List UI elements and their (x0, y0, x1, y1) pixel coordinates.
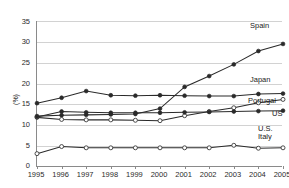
data-point (158, 111, 162, 115)
y-tick-25: 25 (10, 59, 30, 66)
data-point (158, 93, 162, 97)
x-tick-2005: 2005 (267, 170, 289, 179)
series-spain (35, 42, 285, 118)
data-point (109, 146, 113, 150)
data-point (60, 113, 64, 117)
data-point (158, 107, 162, 111)
series-label-portugal: Portugal (248, 97, 276, 105)
line-chart: (%) 35 30 25 20 15 10 5 0 1995 1996 1997 (0, 0, 289, 188)
data-point (60, 117, 64, 121)
y-tick-35: 35 (10, 18, 30, 25)
data-point (232, 143, 236, 147)
x-axis-tick-labels: 1995 1996 1997 1998 1999 2000 2001 2002 … (0, 170, 289, 186)
data-point (35, 115, 39, 119)
data-point (256, 146, 260, 150)
data-point (84, 118, 88, 122)
data-point (84, 146, 88, 150)
data-point (133, 118, 137, 122)
x-tick-mark-2005 (283, 166, 284, 169)
data-point (134, 111, 138, 115)
y-tick-10: 10 (10, 121, 30, 128)
data-point (84, 110, 88, 114)
data-point (257, 49, 261, 53)
data-point (232, 94, 236, 98)
y-tick-5: 5 (10, 142, 30, 149)
data-point (84, 89, 88, 93)
data-point (281, 146, 285, 150)
data-point (281, 42, 285, 46)
series-layer (37, 21, 283, 167)
data-point (183, 146, 187, 150)
data-point (183, 94, 187, 98)
data-point (257, 109, 261, 113)
series-italy (35, 143, 285, 155)
plot-area (36, 21, 282, 167)
data-point (35, 101, 39, 105)
y-tick-0: 0 (10, 162, 30, 169)
y-tick-15: 15 (10, 100, 30, 107)
y-tick-30: 30 (10, 38, 30, 45)
y-tick-20: 20 (10, 80, 30, 87)
series-label-italy: Italy (258, 133, 272, 141)
data-point (109, 93, 113, 97)
series-label-japan: Japan (250, 76, 270, 84)
data-point (60, 145, 64, 149)
y-axis-tick-labels: 35 30 25 20 15 10 5 0 (8, 0, 30, 188)
data-point (109, 118, 113, 122)
data-point (207, 74, 211, 78)
data-point (35, 152, 39, 156)
data-point (158, 119, 162, 123)
series-label-spain: Spain (250, 22, 269, 30)
data-point (134, 94, 138, 98)
data-point (158, 146, 162, 150)
data-point (281, 92, 285, 96)
data-point (207, 94, 211, 98)
series-label-us: US (272, 110, 282, 118)
data-point (207, 110, 211, 114)
data-point (133, 146, 137, 150)
data-point (183, 110, 187, 114)
data-point (60, 110, 64, 114)
data-point (109, 111, 113, 115)
data-point (207, 146, 211, 150)
data-point (232, 110, 236, 114)
data-point (281, 97, 285, 101)
data-point (232, 106, 236, 110)
data-point (232, 62, 236, 66)
data-point (60, 96, 64, 100)
data-point (183, 85, 187, 89)
